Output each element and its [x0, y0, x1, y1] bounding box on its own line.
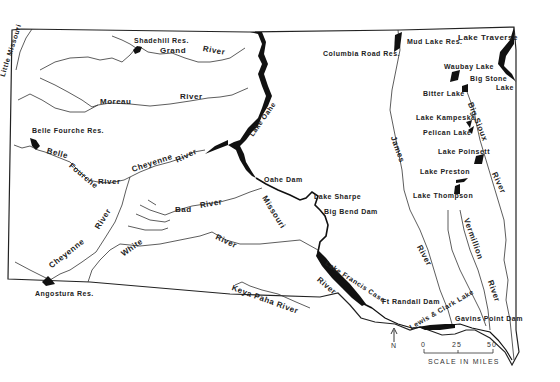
scale-tick-25: 25: [452, 341, 462, 348]
north-arrow-icon: [391, 328, 397, 342]
belle-fourche-reservoir: [30, 138, 40, 150]
label-mud-lake-res: Mud Lake Res.: [407, 38, 463, 45]
grand-north-fork: [112, 36, 136, 48]
scale-bar: [424, 349, 493, 353]
columbia-road-reservoir: [394, 32, 402, 52]
label-big-stone-2: Lake: [496, 84, 514, 91]
scale-tick-50: 50: [487, 341, 497, 348]
north-arrow-label: N: [391, 342, 397, 349]
white-river: [88, 232, 318, 282]
label-angostura-res: Angostura Res.: [35, 290, 94, 297]
label-lake-preston: Lake Preston: [420, 168, 470, 175]
cheyenne-mouth-arm: [205, 140, 228, 154]
label-bad-1: Bad: [175, 205, 192, 214]
lake-preston: [456, 178, 468, 183]
scale-tick-0: 0: [421, 341, 426, 348]
james-river: [390, 30, 452, 324]
label-pelican-lake: Pelican Lake: [423, 129, 471, 136]
label-moreau-2: River: [180, 92, 203, 101]
bad-river-branches: [128, 200, 170, 230]
label-oahe-dam: Oahe Dam: [264, 176, 303, 183]
south-dakota-map: [0, 0, 560, 382]
label-lake-thompson: Lake Thompson: [413, 192, 473, 199]
label-shadehill-res: Shadehill Res.: [134, 37, 189, 44]
label-moreau-1: Moreau: [100, 97, 131, 106]
lake-kampeska: [466, 120, 472, 128]
label-big-stone-1: Big Stone: [470, 75, 507, 82]
waubay-lake: [450, 70, 460, 82]
label-big-bend-dam: Big Bend Dam: [324, 208, 378, 215]
moreau-river: [40, 78, 248, 107]
lake-poinsett: [474, 154, 484, 164]
label-grand-1: Grand: [160, 46, 186, 55]
label-lake-sharpe: Lake Sharpe: [314, 193, 361, 200]
label-lake-traverse: Lake Traverse: [458, 33, 518, 42]
cheyenne-river-south: [15, 177, 130, 280]
label-gavins-point-dam: Gavins Point Dam: [455, 315, 523, 322]
scale-label: SCALE IN MILES: [428, 358, 500, 365]
label-columbia-road-res: Columbia Road Res.: [323, 50, 400, 57]
label-lake-poinsett: Lake Poinsett: [438, 148, 490, 155]
label-waubay-lake: Waubay Lake: [444, 63, 494, 70]
label-ft-randall-dam: Ft Randall Dam: [382, 298, 440, 305]
label-belle-river: River: [98, 177, 121, 186]
lake-oahe: [228, 32, 272, 178]
label-bitter-lake: Bitter Lake: [423, 90, 465, 97]
label-lake-kampeska: Lake Kampeska: [416, 114, 475, 121]
label-belle-fourche-res: Belle Fourche Res.: [32, 127, 104, 134]
